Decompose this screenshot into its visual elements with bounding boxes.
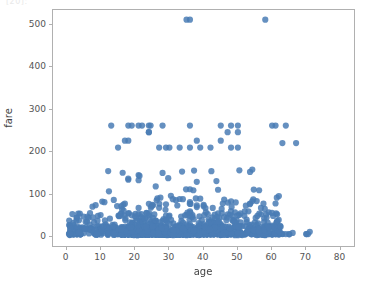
- y-tick-mark: [49, 194, 52, 195]
- x-tick-mark: [168, 247, 169, 250]
- y-tick-mark: [49, 151, 52, 152]
- x-tick-label: 0: [63, 252, 69, 262]
- x-tick-mark: [237, 247, 238, 250]
- x-tick-mark: [203, 247, 204, 250]
- x-tick-label: 70: [300, 252, 311, 262]
- x-tick-mark: [305, 247, 306, 250]
- y-tick-label: 0: [40, 231, 46, 241]
- matplotlib-figure: [20]: 0100200300400500 01020304050607080…: [0, 0, 369, 291]
- y-tick-label: 300: [29, 104, 46, 114]
- y-axis-label: fare: [3, 108, 14, 128]
- y-tick-mark: [49, 109, 52, 110]
- x-axis-label: age: [194, 266, 213, 277]
- plot-axes-area: [52, 9, 355, 247]
- x-tick-mark: [66, 247, 67, 250]
- x-tick-mark: [340, 247, 341, 250]
- y-tick-mark: [49, 24, 52, 25]
- y-tick-mark: [49, 236, 52, 237]
- x-tick-label: 50: [231, 252, 242, 262]
- truncated-output-label: [20]:: [6, 0, 28, 6]
- x-tick-label: 40: [197, 252, 208, 262]
- scatter-plot-canvas: [53, 10, 355, 247]
- y-tick-label: 500: [29, 19, 46, 29]
- x-tick-label: 60: [265, 252, 276, 262]
- x-tick-mark: [100, 247, 101, 250]
- x-tick-label: 80: [334, 252, 345, 262]
- x-tick-label: 20: [128, 252, 139, 262]
- x-tick-label: 10: [94, 252, 105, 262]
- x-tick-mark: [134, 247, 135, 250]
- x-tick-label: 30: [163, 252, 174, 262]
- y-tick-label: 100: [29, 189, 46, 199]
- y-tick-mark: [49, 66, 52, 67]
- y-tick-label: 200: [29, 146, 46, 156]
- y-tick-label: 400: [29, 61, 46, 71]
- x-tick-mark: [271, 247, 272, 250]
